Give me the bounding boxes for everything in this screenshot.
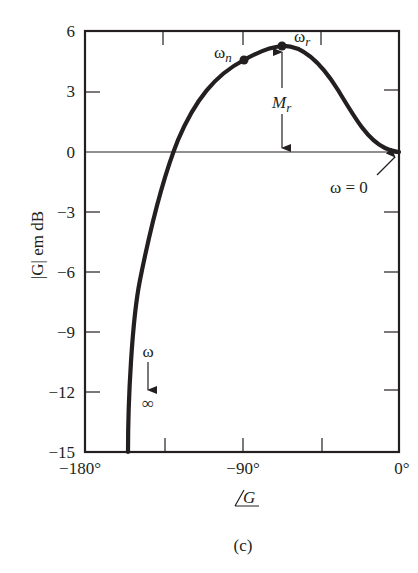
x-ticks-bottom xyxy=(165,438,322,452)
svg-text:−9: −9 xyxy=(57,323,75,342)
omega-zero-label: ω = 0 xyxy=(330,178,368,197)
omega-r-marker xyxy=(278,42,287,51)
omega-n-marker xyxy=(240,56,249,65)
nichols-curve xyxy=(128,46,399,452)
svg-text:0: 0 xyxy=(67,143,76,162)
svg-text:−6: −6 xyxy=(57,263,75,282)
svg-text:−3: −3 xyxy=(57,203,75,222)
x-axis-label: G xyxy=(235,488,259,507)
mr-label: Mr xyxy=(271,93,292,115)
y-axis-label: |G| em dB xyxy=(28,211,47,279)
x-tick-label-minus180: −180° xyxy=(59,459,101,478)
svg-text:3: 3 xyxy=(67,82,76,101)
svg-text:6: 6 xyxy=(67,22,76,41)
x-tick-label-minus90: −90° xyxy=(226,459,259,478)
x-tick-label-0: 0° xyxy=(394,459,409,478)
omega-n-label: ωn xyxy=(214,43,232,65)
y-tick-labels: 6 3 0 −3 −6 −9 −12 −15 xyxy=(48,22,75,462)
plot-frame xyxy=(85,31,399,452)
nichols-chart: 6 3 0 −3 −6 −9 −12 −15 −180° −90° 0° |G|… xyxy=(0,0,418,573)
y-ticks-left xyxy=(85,92,100,392)
svg-text:−12: −12 xyxy=(48,383,75,402)
omega-inf-top-label: ω xyxy=(142,342,153,361)
y-ticks-right xyxy=(384,90,399,390)
omega-zero-arrow xyxy=(377,157,395,175)
svg-text:G: G xyxy=(243,488,255,507)
omega-inf-bottom-label: ∞ xyxy=(142,394,154,413)
figure-caption: (c) xyxy=(234,536,253,555)
